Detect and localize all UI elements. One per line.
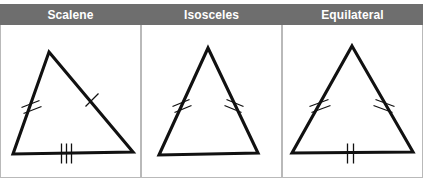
panel-row: Scalene (0, 0, 423, 186)
scalene-triangle-outline (13, 52, 133, 154)
panel-scalene: Scalene (0, 0, 141, 186)
isosceles-triangle-outline (159, 48, 258, 155)
isosceles-triangle-drawing (142, 25, 283, 178)
equilateral-triangle-outline (292, 46, 413, 153)
panel-isosceles-body (141, 25, 282, 178)
panel-isosceles-title: Isosceles (184, 9, 239, 21)
panel-isosceles: Isosceles (141, 0, 282, 186)
triangle-types-figure: Scalene (0, 0, 423, 186)
scalene-triangle-drawing (1, 25, 142, 178)
panel-equilateral-header: Equilateral (282, 4, 423, 25)
panel-scalene-header: Scalene (0, 4, 141, 25)
panel-equilateral: Equilateral (282, 0, 423, 186)
equilateral-triangle-drawing (283, 25, 423, 178)
panel-scalene-title: Scalene (47, 9, 93, 21)
panel-equilateral-title: Equilateral (321, 9, 383, 21)
panel-scalene-body (0, 25, 141, 178)
panel-isosceles-header: Isosceles (141, 4, 282, 25)
panel-equilateral-body (282, 25, 423, 178)
